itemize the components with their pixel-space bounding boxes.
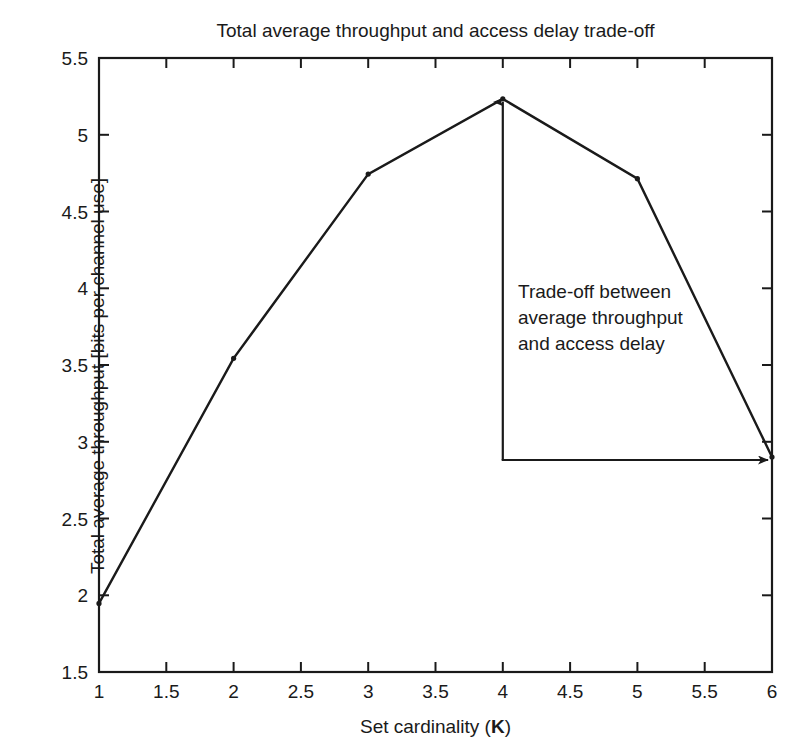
annotation-line-3: and access delay [518, 333, 665, 354]
data-point [635, 176, 640, 181]
data-point [231, 356, 236, 361]
xtick-label: 1.5 [153, 681, 179, 702]
x-axis-ticks-top [99, 58, 772, 68]
annotation-line-2: average throughput [518, 307, 684, 328]
data-point [500, 96, 505, 101]
ytick-label: 4.5 [62, 202, 88, 223]
plot-box-frame [99, 58, 772, 672]
x-axis-tick-labels: 1 1.5 2 2.5 3 3.5 4 4.5 5 5.5 6 [94, 681, 778, 702]
data-series-line [99, 99, 772, 604]
xtick-label: 5 [632, 681, 643, 702]
xtick-label: 3 [363, 681, 374, 702]
y-axis-tick-labels: 1.5 2 2.5 3 3.5 4 4.5 5 5.5 [62, 48, 89, 683]
x-axis-label-symbol: K [491, 716, 505, 737]
xtick-label: 4 [498, 681, 509, 702]
data-point [366, 172, 371, 177]
ytick-label: 1.5 [62, 662, 88, 683]
ytick-label: 3.5 [62, 355, 88, 376]
xtick-label: 5.5 [691, 681, 717, 702]
xtick-label: 2 [228, 681, 239, 702]
y-axis-ticks-right [762, 58, 772, 672]
chart-figure: Total average throughput and access dela… [0, 0, 799, 753]
x-axis-label-suffix: ) [505, 716, 511, 737]
x-axis-label: Set cardinality (K) [99, 716, 772, 738]
xtick-label: 1 [94, 681, 105, 702]
annotation-line-1: Trade-off between [518, 281, 671, 302]
y-axis-label: Total average throughput [bits per chann… [87, 69, 109, 683]
x-axis-label-prefix: Set cardinality ( [360, 716, 491, 737]
ytick-label: 5.5 [62, 48, 88, 69]
xtick-label: 2.5 [288, 681, 314, 702]
trade-off-annotation-text: Trade-off between average throughput and… [518, 281, 684, 354]
data-point-markers [96, 96, 774, 606]
plot-area: 1 1.5 2 2.5 3 3.5 4 4.5 5 5.5 6 1.5 2 2.… [0, 0, 799, 753]
xtick-label: 3.5 [422, 681, 448, 702]
xtick-label: 6 [767, 681, 778, 702]
data-point [769, 454, 774, 459]
ytick-label: 2.5 [62, 509, 88, 530]
x-axis-ticks-bottom [99, 662, 772, 672]
xtick-label: 4.5 [557, 681, 583, 702]
